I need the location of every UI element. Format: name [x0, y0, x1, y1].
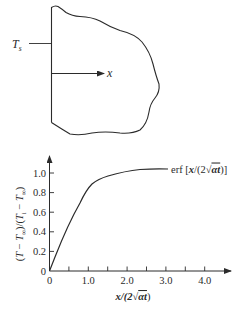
y-ticks — [50, 173, 55, 251]
svg-text:0.2: 0.2 — [33, 246, 46, 257]
solid-diagram: Ts x — [12, 6, 159, 135]
svg-text:0.6: 0.6 — [33, 207, 46, 218]
solid-outline — [52, 6, 160, 135]
erf-chart: 0 0.2 0.4 0.6 0.8 1.0 0 1.0 2.0 3.0 4.0 — [14, 156, 231, 303]
erf-curve — [50, 169, 169, 271]
svg-text:0: 0 — [41, 266, 46, 277]
svg-text:3.0: 3.0 — [159, 275, 172, 286]
svg-text:0.8: 0.8 — [33, 187, 46, 198]
x-axis-label: x/(2√αt) — [115, 291, 151, 303]
svg-text:0: 0 — [47, 275, 52, 286]
svg-text:4.0: 4.0 — [198, 275, 211, 286]
figure: Ts x 0 0.2 0.4 0.6 0.8 1.0 — [0, 0, 247, 320]
surface-temp-label: Ts — [12, 37, 22, 53]
svg-text:1.0: 1.0 — [33, 168, 46, 179]
x-ticks — [69, 267, 205, 272]
y-axis-label: (T − T∞)/(Ti − T∞) — [14, 186, 28, 261]
svg-text:0.4: 0.4 — [33, 226, 47, 237]
erf-series-label: erf [x/(2√αt)] — [171, 164, 227, 176]
x-direction-label: x — [106, 66, 113, 80]
svg-text:2.0: 2.0 — [121, 275, 134, 286]
y-tick-labels: 0 0.2 0.4 0.6 0.8 1.0 — [33, 168, 47, 277]
svg-text:1.0: 1.0 — [82, 275, 95, 286]
x-tick-labels: 0 1.0 2.0 3.0 4.0 — [47, 275, 211, 286]
